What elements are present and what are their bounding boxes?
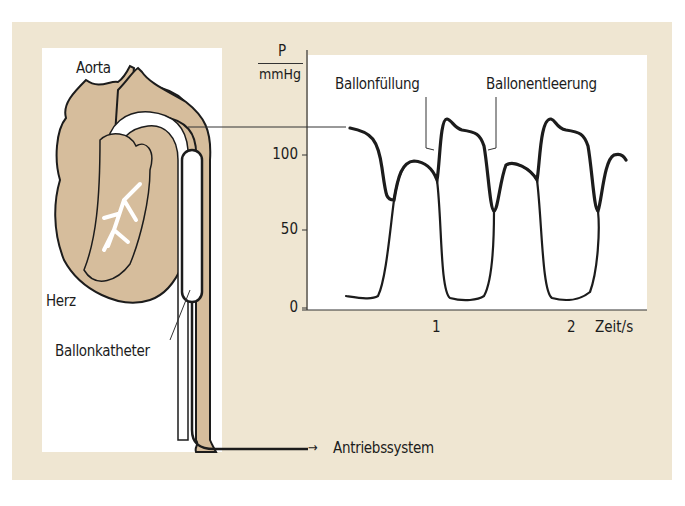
y-tick-label-100: 100 — [258, 145, 298, 163]
balloon-fill-bracket — [426, 97, 434, 150]
drive-system-label: Antriebssystem — [333, 439, 434, 457]
y-axis-unit: mmHg — [256, 66, 304, 82]
annotation-balloon-fill: Ballonfüllung — [335, 75, 419, 93]
arrow-icon: → — [308, 440, 318, 455]
x-axis-label: Zeit/s — [595, 318, 633, 336]
annotation-balloon-deflate: Ballonentleerung — [486, 75, 597, 93]
balloon — [182, 150, 202, 302]
y-tick-label-0: 0 — [258, 298, 298, 316]
y-tick-label-50: 50 — [258, 220, 298, 238]
aortic-pressure-curve — [350, 119, 626, 211]
x-tick-label-1: 1 — [432, 318, 441, 336]
x-tick-label-2: 2 — [567, 318, 576, 336]
y-axis-label-fraction-bar — [258, 63, 303, 64]
heart-label: Herz — [46, 292, 76, 310]
aorta-label: Aorta — [76, 59, 111, 77]
y-axis-label: P — [260, 42, 304, 60]
balloon-catheter-label: Ballonkatheter — [55, 342, 150, 360]
balloon-deflate-bracket — [488, 97, 496, 150]
